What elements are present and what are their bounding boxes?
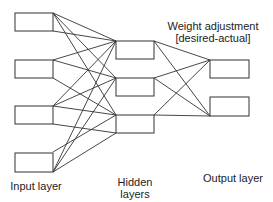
- output-node-1: [210, 60, 249, 78]
- input-node-1: [15, 13, 53, 31]
- title-line-2: [desired-actual]: [158, 32, 268, 44]
- hidden-node-3: [116, 115, 154, 133]
- hidden-layers-label: Hidden layers: [112, 176, 158, 200]
- output-layer-label: Output layer: [198, 172, 268, 184]
- input-node-2: [15, 60, 53, 78]
- weight-adjustment-title: Weight adjustment [desired-actual]: [158, 20, 268, 44]
- input-layer-label: Input layer: [8, 180, 64, 192]
- hidden-label-line-1: Hidden: [112, 176, 158, 188]
- hidden-output-connections: [154, 41, 210, 116]
- output-node-2: [210, 97, 249, 116]
- hidden-node-2: [116, 78, 154, 96]
- input-hidden-connections: [53, 13, 116, 172]
- input-node-3: [15, 106, 53, 124]
- hidden-label-line-2: layers: [112, 188, 158, 200]
- input-node-4: [15, 153, 53, 172]
- title-line-1: Weight adjustment: [158, 20, 268, 32]
- hidden-node-1: [116, 41, 154, 59]
- neural-network-diagram: Weight adjustment [desired-actual] Input…: [0, 0, 273, 202]
